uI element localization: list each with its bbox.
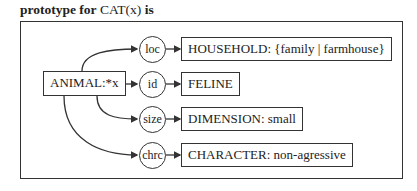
target-household-box: HOUSEHOLD: {family | farmhouse} <box>181 37 392 61</box>
source-concept-box: ANIMAL:*x <box>43 71 126 96</box>
relation-chrc: chrc <box>139 142 166 169</box>
relation-loc: loc <box>139 36 166 63</box>
target-dimension-box: DIMENSION: small <box>181 107 303 131</box>
relation-id: id <box>139 71 166 98</box>
target-character-box: CHARACTER: non-agressive <box>181 143 353 167</box>
arrow-to-loc <box>82 49 137 71</box>
arrow-to-size <box>97 96 137 119</box>
arrow-to-chrc <box>64 96 137 155</box>
target-feline-box: FELINE <box>181 72 240 96</box>
relation-size: size <box>139 106 166 133</box>
